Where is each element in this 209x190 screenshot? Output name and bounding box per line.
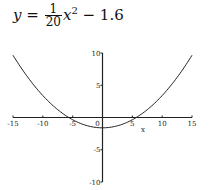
y-tick-label: -10 xyxy=(89,179,100,187)
y-tick-label: 5 xyxy=(96,82,100,90)
plot-area: -15-10-5051015x-10-5510 xyxy=(0,0,209,190)
y-tick-label: 10 xyxy=(92,50,101,58)
x-axis-label: x xyxy=(141,126,145,134)
x-tick-label: -10 xyxy=(37,120,48,128)
x-tick-label: 0 xyxy=(95,120,99,128)
y-tick-label: -5 xyxy=(94,146,101,154)
x-tick-label: 15 xyxy=(188,120,197,128)
x-tick-label: 10 xyxy=(158,120,167,128)
x-tick-label: -15 xyxy=(7,120,18,128)
